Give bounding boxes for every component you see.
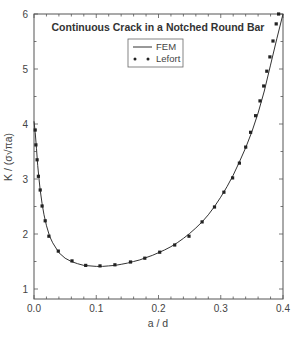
lefort-data-point xyxy=(187,235,190,238)
lefort-data-point xyxy=(249,131,252,134)
y-tick-label: 3 xyxy=(22,174,28,185)
x-tick-labels: 0.00.10.20.30.4 xyxy=(27,303,290,314)
lefort-data-point xyxy=(238,162,241,165)
lefort-data-point xyxy=(113,263,116,266)
legend: FEM Lefort xyxy=(128,39,183,67)
lefort-data-point xyxy=(129,260,132,263)
lefort-data-point xyxy=(271,39,274,42)
y-tick-label: 1 xyxy=(22,284,28,295)
lefort-data-point xyxy=(34,143,37,146)
lefort-data-point xyxy=(173,243,176,246)
lefort-data-point xyxy=(143,257,146,260)
lefort-data-point xyxy=(275,22,278,25)
lefort-data-point xyxy=(34,128,37,131)
lefort-data-point xyxy=(262,84,265,87)
lefort-data-point xyxy=(44,219,47,222)
lefort-data-point xyxy=(277,12,280,15)
lefort-data-point xyxy=(254,114,257,117)
lefort-data-point xyxy=(57,250,60,253)
x-tick-label: 0.0 xyxy=(27,303,41,314)
lefort-data-point xyxy=(265,70,268,73)
lefort-data-point xyxy=(70,259,73,262)
lefort-data-point xyxy=(41,204,44,207)
lefort-data-point xyxy=(84,264,87,267)
x-tick-label: 0.4 xyxy=(276,303,290,314)
x-axis-label: a / d xyxy=(148,317,169,329)
legend-lefort-label: Lefort xyxy=(156,53,181,64)
lefort-data-point xyxy=(222,191,225,194)
x-tick-label: 0.2 xyxy=(152,303,166,314)
lefort-data-point xyxy=(268,55,271,58)
lefort-data-point xyxy=(37,175,40,178)
lefort-data-point xyxy=(258,99,261,102)
y-tick-label: 2 xyxy=(22,229,28,240)
y-tick-label: 6 xyxy=(22,9,28,20)
chart-title: Continuous Crack in a Notched Round Bar xyxy=(52,21,265,33)
y-tick-label: 5 xyxy=(22,64,28,75)
lefort-data-point xyxy=(244,146,247,149)
lefort-data-point xyxy=(213,205,216,208)
y-axis-label: K / (σ√πa) xyxy=(2,133,14,181)
lefort-data-point xyxy=(158,251,161,254)
lefort-data-point xyxy=(201,220,204,223)
lefort-data-point xyxy=(47,235,50,238)
legend-lefort-dot-icon xyxy=(147,58,150,61)
legend-fem-label: FEM xyxy=(156,41,176,52)
y-tick-labels: 123456 xyxy=(22,9,28,295)
lefort-data-point xyxy=(231,176,234,179)
lefort-data-point xyxy=(36,158,39,161)
x-tick-label: 0.3 xyxy=(214,303,228,314)
y-tick-label: 4 xyxy=(22,119,28,130)
chart: 123456 0.00.10.20.30.4 Continuous Crack … xyxy=(0,0,298,339)
legend-lefort-dot-icon xyxy=(134,58,137,61)
lefort-data-point xyxy=(39,188,42,191)
x-tick-label: 0.1 xyxy=(89,303,103,314)
lefort-data-point xyxy=(98,264,101,267)
